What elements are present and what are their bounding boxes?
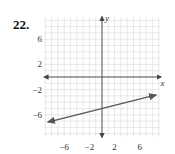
y-tick-label: 6 (38, 34, 43, 44)
x-tick-label: −2 (85, 142, 95, 152)
y-tick-label: −6 (32, 110, 42, 120)
x-axis-label: x (160, 78, 165, 88)
coordinate-plane: xy −6−22662−2−6 (0, 0, 175, 154)
y-axis-label: y (104, 13, 109, 23)
x-tick-label: −6 (59, 142, 69, 152)
x-tick-label: 2 (112, 142, 117, 152)
x-tick-label: 6 (138, 142, 143, 152)
y-tick-label: −2 (32, 85, 42, 95)
y-tick-label: 2 (38, 59, 43, 69)
